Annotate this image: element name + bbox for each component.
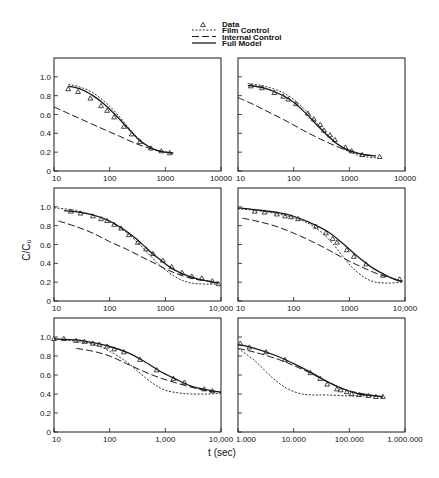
series-internal-control xyxy=(238,98,376,156)
x-tick-label: 10 xyxy=(236,174,245,183)
y-tick-label: 0.4 xyxy=(40,259,52,268)
series-full-model xyxy=(248,85,376,156)
data-point-triangle-icon xyxy=(99,103,104,107)
x-tick-label: 10,000 xyxy=(209,304,234,313)
x-tick-label: 10,000 xyxy=(209,435,234,444)
x-tick-label: 10 xyxy=(52,174,61,183)
series-film-control xyxy=(68,84,173,153)
y-tick-label: 0.4 xyxy=(40,129,52,138)
x-tick-label: 1.000.000 xyxy=(387,435,423,444)
x-tick-label: 100 xyxy=(287,174,301,183)
x-tick-label: 10000 xyxy=(210,174,233,183)
panel-bottom-right: 1.00010.000100.0001.000.000 xyxy=(236,318,423,444)
y-tick-label: 0 xyxy=(47,428,52,437)
legend: DataFilm ControlInternal ControlFull Mod… xyxy=(192,20,282,48)
series-internal-control xyxy=(58,221,218,282)
x-tick-label: 1000 xyxy=(340,174,358,183)
y-tick-label: 0.6 xyxy=(40,241,52,250)
panels: 00.20.40.60.81.0101001000100001010010001… xyxy=(40,58,423,444)
y-tick-label: 0.2 xyxy=(40,278,52,287)
y-tick-label: 0.2 xyxy=(40,148,52,157)
x-tick-label: 1,000 xyxy=(155,435,176,444)
y-tick-label: 0.2 xyxy=(40,409,52,418)
x-tick-label: 1000 xyxy=(340,304,358,313)
y-tick-label: 0.8 xyxy=(40,92,52,101)
x-tick-label: 10,000 xyxy=(393,304,418,313)
panel-top-right: 10100100010000 xyxy=(236,58,417,183)
series-full-model xyxy=(238,208,402,281)
panel-bottom-left: 00.20.40.60.81.0101001,00010,000 xyxy=(40,318,234,444)
y-tick-label: 1.0 xyxy=(40,203,52,212)
data-point-triangle-icon xyxy=(88,96,93,100)
y-tick-label: 0 xyxy=(47,297,52,306)
x-tick-label: 100 xyxy=(103,304,117,313)
plot-frame xyxy=(238,188,405,301)
y-tick-label: 1.0 xyxy=(40,73,52,82)
plot-frame xyxy=(238,318,405,432)
chart-canvas: DataFilm ControlInternal ControlFull Mod… xyxy=(0,0,439,478)
x-tick-label: 100 xyxy=(103,174,117,183)
x-tick-label: 100 xyxy=(103,435,117,444)
y-tick-label: 0.6 xyxy=(40,111,52,120)
x-tick-label: 100 xyxy=(287,304,301,313)
series-full-model xyxy=(68,86,173,153)
triangle-marker-icon xyxy=(201,22,206,26)
series-data-points xyxy=(252,209,402,281)
series-film-control xyxy=(54,339,221,394)
series-internal-control xyxy=(76,348,221,392)
x-tick-label: 1.000 xyxy=(236,435,257,444)
x-tick-label: 10 xyxy=(52,435,61,444)
x-tick-label: 10.000 xyxy=(281,435,306,444)
data-point-triangle-icon xyxy=(377,154,382,158)
series-full-model xyxy=(64,211,219,284)
panel-top-left: 00.20.40.60.81.010100100010000 xyxy=(40,58,233,183)
y-tick-label: 0.4 xyxy=(40,390,52,399)
x-tick-label: 1000 xyxy=(156,304,174,313)
y-tick-label: 0.6 xyxy=(40,371,52,380)
x-tick-label: 10 xyxy=(236,304,245,313)
y-tick-label: 1.0 xyxy=(40,333,52,342)
series-full-model xyxy=(54,339,221,392)
y-tick-label: 0 xyxy=(47,167,52,176)
x-tick-label: 1000 xyxy=(156,174,174,183)
plot-frame xyxy=(54,318,221,432)
x-axis-title: t (sec) xyxy=(208,447,236,458)
legend-full-model: Full Model xyxy=(192,39,262,48)
series-film-control xyxy=(54,208,218,284)
y-tick-label: 0.8 xyxy=(40,352,52,361)
plot-frame xyxy=(54,58,221,171)
y-axis-title: C/C₀ xyxy=(21,239,32,260)
y-tick-label: 0.8 xyxy=(40,222,52,231)
legend-label: Full Model xyxy=(222,39,262,48)
figure: DataFilm ControlInternal ControlFull Mod… xyxy=(0,0,439,478)
x-tick-label: 10000 xyxy=(394,174,417,183)
panel-middle-right: 10100100010,000 xyxy=(236,188,418,313)
x-tick-label: 10 xyxy=(52,304,61,313)
panel-middle-left: 00.20.40.60.81.010100100010,000 xyxy=(40,188,234,313)
data-point-triangle-icon xyxy=(76,89,81,93)
series-data-points xyxy=(52,336,215,392)
x-tick-label: 100.000 xyxy=(335,435,364,444)
series-data-points xyxy=(66,86,172,154)
